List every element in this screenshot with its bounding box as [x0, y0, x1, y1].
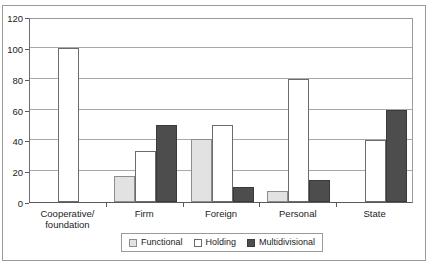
functional-swatch-icon [129, 239, 137, 247]
x-axis-tick-mark [106, 203, 107, 207]
x-axis-tick-mark [336, 203, 337, 207]
y-axis-tick-label: 120 [0, 14, 23, 24]
legend-label-holding: Holding [206, 238, 237, 247]
legend-label-functional: Functional [141, 238, 183, 247]
x-axis-tick-mark [259, 203, 260, 207]
bar-multidivisional [156, 125, 177, 202]
legend-item-functional: Functional [129, 238, 183, 247]
multidivisional-swatch-icon [247, 239, 255, 247]
bar-multidivisional [309, 180, 330, 202]
bar-holding [288, 79, 309, 202]
bar-holding [58, 48, 79, 202]
y-axis-tick-label: 100 [0, 45, 23, 55]
x-axis-category-label: Foreign [183, 208, 260, 219]
bar-holding [135, 151, 156, 202]
holding-swatch-icon [194, 239, 202, 247]
y-axis-tick-label: 60 [0, 107, 23, 117]
bar-holding [212, 125, 233, 202]
y-axis-tick-label: 40 [0, 137, 23, 147]
bar-functional [267, 191, 288, 202]
y-axis-tick-label: 80 [0, 76, 23, 86]
chart-legend: Functional Holding Multidivisional [121, 233, 323, 252]
gridline [30, 109, 412, 110]
bar-chart: 020406080100120 Cooperative/ foundationF… [0, 0, 429, 272]
y-axis-tick-mark [25, 203, 29, 204]
y-axis-tick-label: 0 [0, 199, 23, 209]
legend-label-multidivisional: Multidivisional [259, 238, 315, 247]
legend-item-multidivisional: Multidivisional [247, 238, 315, 247]
bar-functional [191, 139, 212, 202]
bar-holding [365, 140, 386, 202]
x-axis-category-label: Personal [259, 208, 336, 219]
y-axis-tick-label: 20 [0, 168, 23, 178]
x-axis-tick-mark [183, 203, 184, 207]
gridline [30, 47, 412, 48]
bar-multidivisional [233, 187, 254, 202]
gridline [30, 78, 412, 79]
legend-item-holding: Holding [194, 238, 237, 247]
x-axis-category-label: Cooperative/ foundation [29, 208, 106, 230]
x-axis-category-label: Firm [106, 208, 183, 219]
bar-multidivisional [386, 110, 407, 203]
bar-functional [114, 176, 135, 202]
plot-area [29, 18, 413, 203]
x-axis-category-label: State [336, 208, 413, 219]
